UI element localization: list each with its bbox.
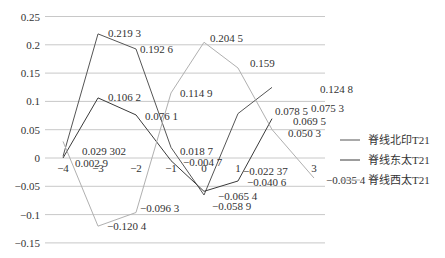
data-label: 0.050 3	[288, 127, 322, 139]
data-label: 0.002 9	[75, 157, 109, 169]
gridlines	[45, 17, 325, 243]
y-tick-label: 0.1	[26, 95, 40, 107]
y-tick-label: 0.25	[21, 11, 41, 23]
data-label: 0.075 3	[311, 102, 345, 114]
y-tick-label: 0	[35, 152, 41, 164]
y-axis-ticks: 0.250.20.150.10.050−0.05−0.1−0.15	[15, 11, 41, 249]
legend-label: 脊线西太T21	[368, 173, 430, 186]
data-label: −0.058 9	[212, 200, 252, 212]
data-label: 0.106 2	[108, 91, 141, 103]
data-label: 0.204 5	[210, 32, 244, 44]
x-tick-label: −4	[57, 162, 69, 174]
data-label: 0.029 302	[82, 145, 126, 157]
data-label: −0.004 7	[183, 156, 223, 168]
legend-label: 脊线东太T21	[368, 153, 430, 166]
data-label: −0.040 6	[247, 176, 287, 188]
data-label: 0.219 3	[108, 27, 142, 39]
data-label: −0.096 3	[140, 202, 180, 214]
data-label: 0.159	[250, 57, 275, 69]
y-tick-label: 0.2	[26, 39, 40, 51]
x-tick-label: −2	[130, 162, 142, 174]
y-tick-label: 0.15	[21, 67, 41, 79]
data-label: 0.076 1	[145, 110, 178, 122]
y-tick-label: 0.05	[21, 124, 41, 136]
legend-label: 脊线北印T21	[368, 133, 430, 146]
data-label: 0.114 9	[180, 87, 213, 99]
x-tick-label: 1	[235, 162, 241, 174]
data-label: 0.124 8	[320, 83, 354, 95]
series-line	[63, 42, 314, 226]
x-tick-label: 3	[311, 162, 317, 174]
y-tick-label: −0.15	[15, 237, 41, 249]
data-label: −0.120 4	[107, 220, 147, 232]
data-label: 0.192 6	[140, 43, 174, 55]
y-tick-label: −0.1	[20, 209, 40, 221]
y-tick-label: −0.05	[15, 180, 41, 192]
data-label: 0.069 5	[293, 115, 327, 127]
line-chart: 0.250.20.150.10.050−0.05−0.1−0.15 −4−3−2…	[0, 0, 445, 258]
